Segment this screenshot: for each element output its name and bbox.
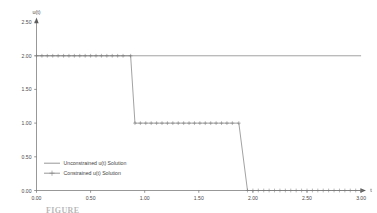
- data-point-marker: [300, 189, 304, 193]
- legend-entry-constrained[interactable]: Constrained u(t) Solution: [44, 170, 121, 176]
- data-point-marker: [83, 54, 87, 58]
- data-point-marker: [332, 189, 336, 193]
- data-point-marker: [220, 121, 224, 125]
- x-tick-label: 1.50: [194, 195, 204, 201]
- data-point-marker: [214, 121, 218, 125]
- x-tick-label: 2.00: [248, 195, 258, 201]
- data-point-marker: [256, 189, 260, 193]
- data-point-marker: [67, 54, 71, 58]
- x-tick-label: 1.00: [140, 195, 150, 201]
- data-point-marker: [343, 189, 347, 193]
- data-point-marker: [160, 121, 164, 125]
- data-point-marker: [283, 189, 287, 193]
- legend-label-unconstrained: Unconstrained u(t) Solution: [64, 160, 127, 166]
- data-point-marker: [89, 54, 93, 58]
- data-point-marker: [144, 121, 148, 125]
- y-tick-label: 1.50: [22, 86, 32, 92]
- data-point-marker: [251, 189, 255, 193]
- data-point-marker: [149, 121, 153, 125]
- y-axis: [34, 18, 38, 191]
- y-tick-labels: 2.50 2.00 1.50 1.00 0.50 0.00: [22, 19, 32, 193]
- data-point-marker: [176, 121, 180, 125]
- x-tick-label: 0.50: [86, 195, 96, 201]
- data-point-marker: [230, 121, 234, 125]
- data-point-marker: [138, 121, 142, 125]
- data-point-marker: [316, 189, 320, 193]
- data-point-marker: [209, 121, 213, 125]
- figure-caption-partial: FIGURE: [46, 207, 196, 213]
- y-tick-label: 0.50: [22, 154, 32, 160]
- y-tick-label: 0.00: [22, 188, 32, 194]
- data-point-marker: [40, 54, 44, 58]
- data-point-marker: [129, 54, 133, 58]
- x-tick-label: 2.50: [302, 195, 312, 201]
- data-point-marker: [166, 121, 170, 125]
- data-point-marker: [72, 54, 76, 58]
- chart-canvas: 2.50 2.00 1.50 1.00 0.50 0.00 0.00 0.50 …: [0, 0, 377, 213]
- data-point-marker: [321, 189, 325, 193]
- y-tick-label: 2.00: [22, 53, 32, 59]
- data-point-marker: [56, 54, 60, 58]
- data-point-marker: [338, 189, 342, 193]
- data-point-marker: [273, 189, 277, 193]
- data-point-marker: [262, 189, 266, 193]
- data-point-marker: [62, 54, 66, 58]
- data-point-marker: [278, 189, 282, 193]
- data-point-marker: [155, 121, 159, 125]
- data-point-marker: [121, 54, 125, 58]
- y-tick-label: 2.50: [22, 19, 32, 25]
- x-axis-title: t: [370, 187, 372, 193]
- figure-caption-text: FIGURE: [46, 207, 196, 213]
- y-tick-label: 1.00: [22, 120, 32, 126]
- x-tick-label: 0.00: [32, 195, 42, 201]
- data-point-marker: [182, 121, 186, 125]
- data-point-marker: [311, 189, 315, 193]
- data-point-marker: [203, 121, 207, 125]
- legend-plus-marker-icon: [49, 171, 54, 176]
- y-axis-title: u(t): [32, 9, 40, 15]
- legend: Unconstrained u(t) Solution Constrained …: [44, 160, 126, 176]
- data-point-marker: [193, 121, 197, 125]
- data-point-marker: [289, 189, 293, 193]
- legend-label-constrained: Constrained u(t) Solution: [64, 170, 121, 176]
- data-point-marker: [171, 121, 175, 125]
- data-point-marker: [133, 121, 137, 125]
- data-point-marker: [187, 121, 191, 125]
- data-point-marker: [225, 121, 229, 125]
- data-point-marker: [354, 189, 358, 193]
- data-point-marker: [51, 54, 55, 58]
- data-point-marker: [78, 54, 82, 58]
- data-point-marker: [348, 189, 352, 193]
- data-point-marker: [246, 189, 250, 193]
- data-point-marker: [294, 189, 298, 193]
- data-point-marker: [198, 121, 202, 125]
- data-point-marker: [45, 54, 49, 58]
- data-point-marker: [237, 121, 241, 125]
- data-point-marker: [305, 189, 309, 193]
- figure-container: 2.50 2.00 1.50 1.00 0.50 0.00 0.00 0.50 …: [0, 0, 377, 213]
- data-point-marker: [100, 54, 104, 58]
- data-point-marker: [105, 54, 109, 58]
- data-point-marker: [327, 189, 331, 193]
- data-point-marker: [35, 54, 39, 58]
- data-point-marker: [110, 54, 114, 58]
- legend-entry-unconstrained[interactable]: Unconstrained u(t) Solution: [44, 160, 126, 166]
- data-point-marker: [94, 54, 98, 58]
- data-point-marker: [267, 189, 271, 193]
- x-tick-label: 3.00: [356, 195, 366, 201]
- x-tick-labels: 0.00 0.50 1.00 1.50 2.00 2.50 3.00: [32, 195, 367, 201]
- data-point-marker: [116, 54, 120, 58]
